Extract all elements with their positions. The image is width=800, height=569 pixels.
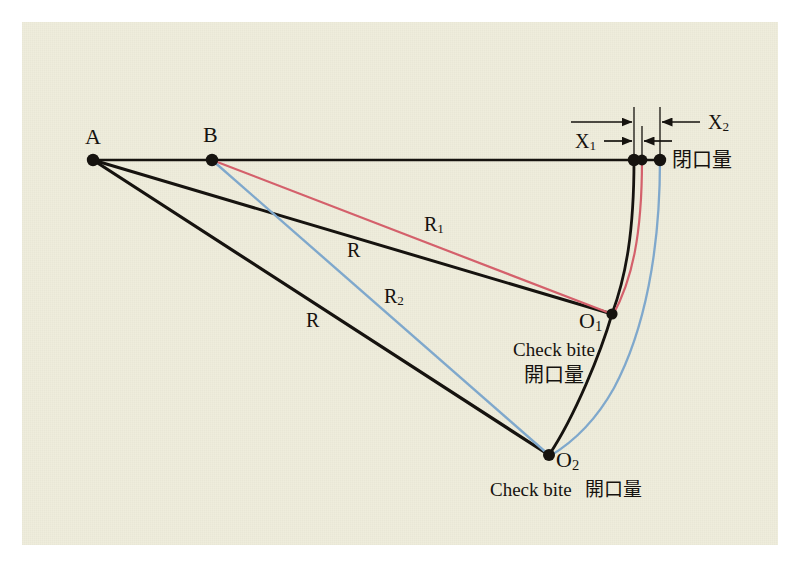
radius-line-B-O1-red (212, 160, 612, 314)
point-label-A: A (85, 126, 101, 148)
diagram-svg (0, 0, 800, 569)
radius-label-r1-subscript: 1 (437, 221, 444, 236)
radius-label-r-lower-base: R (306, 309, 319, 331)
radius-label-r-upper-base: R (347, 239, 360, 261)
figure-page: A B O1 O2 R1 R R2 R X1 X2 閉口量 Check bite… (0, 0, 800, 569)
point-label-O1-base: O (579, 308, 595, 333)
radius-label-r-upper: R (347, 240, 360, 260)
radius-line-B-O2-blue (212, 160, 549, 455)
annotation-check-bite-center: Check bite 開口量 (474, 340, 634, 385)
condylar-arc-red (613, 160, 642, 315)
dimension-label-x2-subscript: 2 (722, 119, 729, 134)
point-label-O1-subscript: 1 (595, 318, 602, 334)
point-marker-A (87, 154, 99, 166)
point-label-O2-base: O (556, 447, 572, 472)
caption-latin: Check bite (490, 479, 572, 500)
caption-cjk: 開口量 (585, 478, 642, 500)
point-marker-O2 (543, 449, 555, 461)
condylar-arc-blue (550, 160, 660, 456)
annotation-closing-amount: 閉口量 (672, 150, 732, 170)
point-label-O1: O1 (579, 310, 602, 333)
point-marker-red-top (637, 155, 648, 166)
radius-label-r2-subscript: 2 (397, 293, 404, 308)
point-label-B: B (203, 124, 218, 146)
radius-label-r-lower: R (306, 310, 319, 330)
point-marker-B (206, 154, 218, 166)
caption-check-bite-bottom: Check bite 開口量 (490, 480, 642, 499)
dimension-label-x1-subscript: 1 (589, 138, 596, 153)
point-marker-blue-top (654, 154, 666, 166)
dimension-label-x2: X2 (708, 112, 729, 134)
annotation-check-bite-center-line2: 開口量 (474, 365, 634, 385)
annotation-check-bite-center-line1: Check bite (474, 340, 634, 359)
radius-label-r2-base: R (384, 285, 397, 307)
radius-line-A-O2 (93, 160, 549, 455)
radius-label-r1-base: R (424, 213, 437, 235)
radius-label-r2: R2 (384, 286, 404, 308)
dimension-label-x1: X1 (575, 131, 596, 153)
point-marker-O1 (606, 308, 617, 319)
dimension-label-x1-base: X (575, 130, 589, 152)
dimension-label-x2-base: X (708, 111, 722, 133)
point-label-O2: O2 (556, 449, 579, 472)
point-label-O2-subscript: 2 (572, 457, 579, 473)
radius-line-A-O1 (93, 160, 612, 314)
radius-label-r1: R1 (424, 214, 444, 236)
